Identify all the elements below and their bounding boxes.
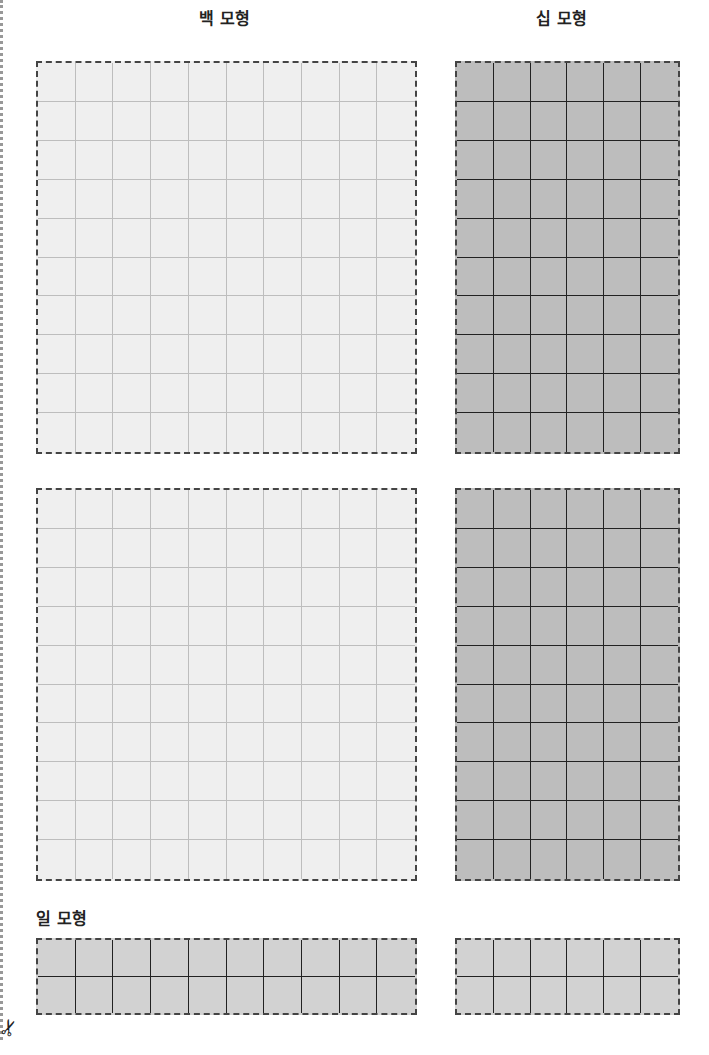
grid-cell xyxy=(76,685,114,724)
grid-cell xyxy=(494,762,531,801)
grid-cell xyxy=(113,568,151,607)
grid-cell xyxy=(38,529,76,568)
grid-cell xyxy=(189,840,227,879)
grid-cell xyxy=(377,335,415,374)
grid-cell xyxy=(567,840,604,879)
grid-cell xyxy=(604,180,641,219)
grid-cell xyxy=(494,335,531,374)
grid-cell xyxy=(227,374,265,413)
grid-cell xyxy=(189,413,227,452)
grid-cell xyxy=(151,840,189,879)
grid-cell xyxy=(531,840,568,879)
grid-cell xyxy=(38,141,76,180)
grid-cell xyxy=(494,258,531,297)
grid-cell xyxy=(151,413,189,452)
grid-cell xyxy=(531,723,568,762)
grid-cell xyxy=(76,490,114,529)
grid-cell xyxy=(189,296,227,335)
grid-cell xyxy=(113,63,151,102)
grid-cell xyxy=(531,490,568,529)
grid-cell xyxy=(264,490,302,529)
grid-cell xyxy=(227,685,265,724)
grid-cell xyxy=(151,568,189,607)
grid-cell xyxy=(531,801,568,840)
ten-block-2[interactable] xyxy=(455,488,680,881)
grid-cell xyxy=(113,296,151,335)
hundred-block-2[interactable] xyxy=(36,488,417,881)
grid-cell xyxy=(457,258,494,297)
grid-cell xyxy=(340,374,378,413)
grid-cell xyxy=(531,762,568,801)
grid-cell xyxy=(457,762,494,801)
grid-cell xyxy=(494,646,531,685)
grid-cell xyxy=(457,102,494,141)
grid-cell xyxy=(457,607,494,646)
grid-cell xyxy=(189,977,227,1014)
grid-cell xyxy=(567,646,604,685)
ten-model-label: 십 모형 xyxy=(536,5,587,29)
grid-cell xyxy=(340,296,378,335)
grid-cell xyxy=(38,219,76,258)
grid-cell xyxy=(457,977,494,1014)
grid-cell xyxy=(604,568,641,607)
grid-cell xyxy=(567,685,604,724)
grid-cell xyxy=(264,940,302,977)
grid-cell xyxy=(38,762,76,801)
grid-cell xyxy=(377,63,415,102)
grid-cell xyxy=(151,490,189,529)
grid-cell xyxy=(302,685,340,724)
one-block-2[interactable] xyxy=(455,938,680,1015)
grid-cell xyxy=(227,63,265,102)
grid-cell xyxy=(531,685,568,724)
grid-cell xyxy=(264,141,302,180)
grid-cell xyxy=(113,141,151,180)
grid-cell xyxy=(531,568,568,607)
grid-cell xyxy=(151,529,189,568)
grid-cell xyxy=(494,63,531,102)
grid-cell xyxy=(302,63,340,102)
grid-cell xyxy=(641,762,678,801)
grid-cell xyxy=(113,646,151,685)
grid-cell xyxy=(567,977,604,1014)
grid-cell xyxy=(151,335,189,374)
one-block-1[interactable] xyxy=(36,938,417,1015)
grid-cell xyxy=(340,762,378,801)
grid-cell xyxy=(457,646,494,685)
grid-cell xyxy=(494,977,531,1014)
grid-cell xyxy=(264,685,302,724)
grid-cell xyxy=(457,685,494,724)
grid-cell xyxy=(641,685,678,724)
hundred-block-1[interactable] xyxy=(36,61,417,454)
grid-cell xyxy=(189,607,227,646)
grid-cell xyxy=(38,335,76,374)
ten-block-1[interactable] xyxy=(455,61,680,454)
grid-cell xyxy=(264,335,302,374)
grid-cell xyxy=(189,490,227,529)
grid-cell xyxy=(567,529,604,568)
grid-cell xyxy=(641,102,678,141)
grid-cell xyxy=(151,940,189,977)
grid-cell xyxy=(227,102,265,141)
grid-cell xyxy=(531,374,568,413)
grid-cell xyxy=(340,685,378,724)
grid-cell xyxy=(377,723,415,762)
grid-cell xyxy=(377,840,415,879)
grid-cell xyxy=(227,296,265,335)
grid-cell xyxy=(264,180,302,219)
grid-cell xyxy=(604,685,641,724)
grid-cell xyxy=(340,490,378,529)
grid-cell xyxy=(227,258,265,297)
grid-cell xyxy=(494,102,531,141)
grid-cell xyxy=(531,977,568,1014)
grid-cell xyxy=(227,607,265,646)
grid-cell xyxy=(340,180,378,219)
grid-cell xyxy=(641,413,678,452)
grid-cell xyxy=(457,568,494,607)
grid-cell xyxy=(151,63,189,102)
grid-cell xyxy=(494,840,531,879)
grid-cell xyxy=(494,568,531,607)
grid-cell xyxy=(340,646,378,685)
grid-cell xyxy=(76,413,114,452)
grid-cell xyxy=(227,646,265,685)
grid-cell xyxy=(641,646,678,685)
